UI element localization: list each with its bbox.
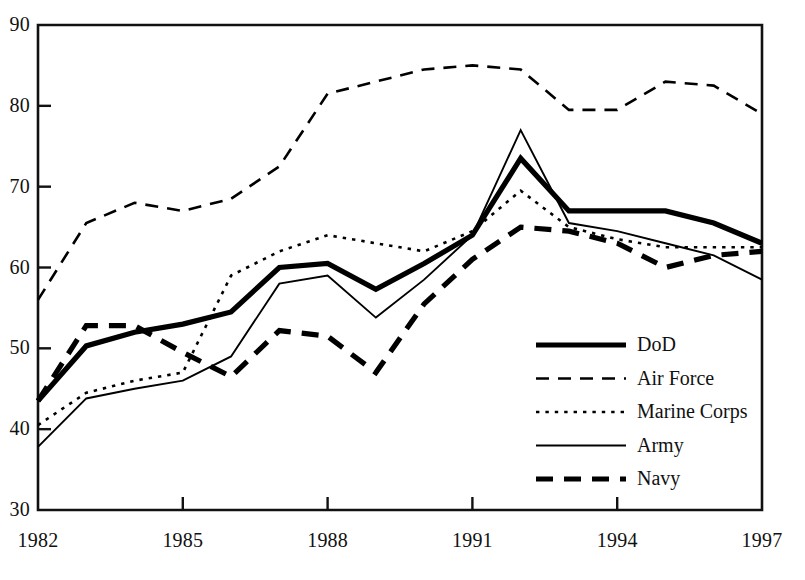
data-series-group bbox=[38, 65, 762, 447]
x-tick-label: 1988 bbox=[283, 530, 373, 550]
x-tick-label: 1994 bbox=[572, 530, 662, 550]
series-line-marine-corps bbox=[38, 191, 762, 425]
series-line-air-force bbox=[38, 65, 762, 299]
legend-sample-lines bbox=[536, 345, 626, 479]
y-tick-label: 90 bbox=[10, 14, 30, 34]
legend-label-army: Army bbox=[637, 435, 684, 455]
y-tick-label: 70 bbox=[10, 176, 30, 196]
x-tick-label: 1985 bbox=[138, 530, 228, 550]
x-tick-label: 1997 bbox=[717, 530, 805, 550]
y-tick-label: 40 bbox=[10, 418, 30, 438]
line-chart: 30405060708090 198219851988199119941997 … bbox=[0, 0, 805, 580]
legend-label-dod: DoD bbox=[637, 334, 676, 354]
y-tick-label: 60 bbox=[10, 257, 30, 277]
y-tick-label: 80 bbox=[10, 95, 30, 115]
x-tick-label: 1982 bbox=[0, 530, 83, 550]
legend-label-marine-corps: Marine Corps bbox=[637, 401, 748, 421]
x-tick-label: 1991 bbox=[427, 530, 517, 550]
legend-label-navy: Navy bbox=[637, 468, 680, 488]
y-tick-label: 50 bbox=[10, 337, 30, 357]
legend-label-air-force: Air Force bbox=[637, 368, 714, 388]
y-tick-label: 30 bbox=[10, 499, 30, 519]
plot-area bbox=[0, 0, 805, 580]
series-line-dod bbox=[38, 158, 762, 401]
